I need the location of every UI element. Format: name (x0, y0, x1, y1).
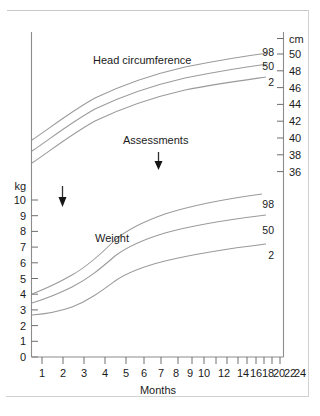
weight-curves (32, 194, 266, 315)
x-axis-label-14: 14 (237, 367, 249, 379)
percentile-labels-group: 98 50 2 98 50 2 (262, 46, 274, 261)
right-axis-label-38: 38 (289, 149, 301, 161)
left-axis-label-10: 10 (14, 194, 26, 206)
x-axis-label-5: 5 (123, 367, 129, 379)
right-axis-label-48: 48 (289, 65, 301, 77)
growth-chart-figure: kg 10 9 8 7 6 5 4 3 2 1 0 cm 50 (0, 0, 320, 416)
right-axis-label-42: 42 (289, 115, 301, 127)
assessments-arrow-icon (155, 152, 163, 170)
x-axis-label-3: 3 (81, 367, 87, 379)
left-axis-title: kg (14, 180, 26, 192)
right-axis-label-44: 44 (289, 98, 301, 110)
right-axis-label-36: 36 (289, 166, 301, 178)
weight-label: Weight (95, 232, 129, 244)
assessments-label: Assessments (123, 134, 189, 146)
left-axis-label-1: 1 (20, 335, 26, 347)
x-axis-label-24: 24 (294, 367, 306, 379)
right-axis-group: cm 50 48 46 44 42 40 38 36 (277, 32, 304, 357)
x-axis-label-10: 10 (198, 367, 210, 379)
left-axis-label-0: 0 (20, 351, 26, 363)
x-axis-label-4: 4 (102, 367, 108, 379)
x-axis-title: Months (140, 384, 177, 396)
weight-curve-2 (32, 244, 266, 315)
x-axis-label-9: 9 (187, 367, 193, 379)
chart-canvas: kg 10 9 8 7 6 5 4 3 2 1 0 cm 50 (0, 0, 320, 416)
right-axis-label-50: 50 (289, 48, 301, 60)
hc-percentile-label-2: 2 (268, 76, 274, 88)
x-axis-label-16: 16 (250, 367, 262, 379)
right-axis-label-40: 40 (289, 132, 301, 144)
x-axis-label-8: 8 (173, 367, 179, 379)
x-axis-label-6: 6 (141, 367, 147, 379)
head-circumference-curves (32, 53, 268, 163)
right-axis-label-46: 46 (289, 82, 301, 94)
weight-percentile-label-2: 2 (268, 249, 274, 261)
left-axis-label-4: 4 (20, 288, 26, 300)
left-axis-label-8: 8 (20, 225, 26, 237)
x-axis-label-7: 7 (158, 367, 164, 379)
left-axis-label-7: 7 (20, 241, 26, 253)
left-axis-label-9: 9 (20, 210, 26, 222)
hc-percentile-label-98: 98 (262, 46, 274, 58)
hc-percentile-label-50: 50 (262, 60, 274, 72)
left-axis-group: kg 10 9 8 7 6 5 4 3 2 1 0 (14, 32, 38, 363)
x-axis-label-2: 2 (60, 367, 66, 379)
x-axis-group: 1 2 3 4 5 6 7 8 9 10 12 14 16 18 20 22 2… (32, 357, 307, 396)
right-axis-title: cm (289, 33, 304, 45)
left-axis-label-5: 5 (20, 273, 26, 285)
x-axis-label-12: 12 (218, 367, 230, 379)
weight-curve-98 (32, 194, 262, 294)
weight-percentile-label-50: 50 (262, 224, 274, 236)
left-axis-label-6: 6 (20, 257, 26, 269)
x-axis-label-1: 1 (39, 367, 45, 379)
hc-curve-2 (32, 77, 266, 163)
left-axis-label-3: 3 (20, 304, 26, 316)
left-axis-label-2: 2 (20, 320, 26, 332)
weight-arrow-icon (59, 186, 67, 207)
head-circumference-label: Head circumference (93, 54, 191, 66)
weight-curve-50 (32, 215, 266, 303)
weight-percentile-label-98: 98 (262, 198, 274, 210)
